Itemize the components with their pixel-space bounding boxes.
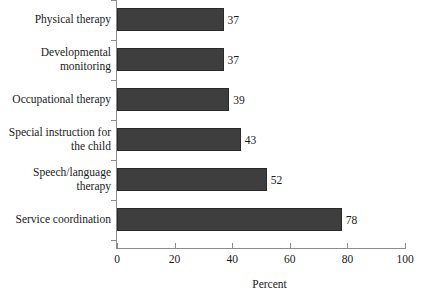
bar-value-label: 37 [228,14,240,26]
bar [117,168,267,191]
bar [117,48,224,71]
x-axis-tick [405,243,406,249]
category-label: Speech/language therapy [3,166,111,193]
bar-chart: 37Physical therapy37Developmental monito… [0,0,427,300]
category-label: Service coordination [3,213,111,227]
y-axis-tick [111,200,117,201]
x-axis-tick-label: 20 [155,253,195,266]
y-axis-tick [111,120,117,121]
y-axis-tick [111,40,117,41]
y-axis-tick [111,160,117,161]
y-axis-tick [111,0,117,1]
y-axis-tick [111,80,117,81]
x-axis-tick-label: 0 [97,253,137,266]
x-axis-tick [232,243,233,249]
bar [117,88,229,111]
category-label: Developmental monitoring [3,46,111,73]
x-axis-tick-label: 80 [327,253,367,266]
x-axis-tick [175,243,176,249]
bar-value-label: 78 [346,214,358,226]
bar-value-label: 43 [245,134,257,146]
category-label: Physical therapy [3,13,111,27]
x-axis-tick-label: 40 [212,253,252,266]
x-axis-line [116,248,406,249]
bar-value-label: 52 [271,174,283,186]
bar [117,8,224,31]
bar-value-label: 37 [228,54,240,66]
bar [117,128,241,151]
x-axis-tick-label: 100 [385,253,425,266]
bar [117,208,342,231]
y-axis-tick [111,240,117,241]
bar-value-label: 39 [233,94,245,106]
x-axis-tick-label: 60 [270,253,310,266]
x-axis-tick [117,243,118,249]
x-axis-tick [347,243,348,249]
x-axis-title-text: Percent [252,278,286,290]
x-axis-tick [290,243,291,249]
category-label: Occupational therapy [3,93,111,107]
x-axis-title: Percent [0,278,427,290]
category-label: Special instruction for the child [3,126,111,153]
